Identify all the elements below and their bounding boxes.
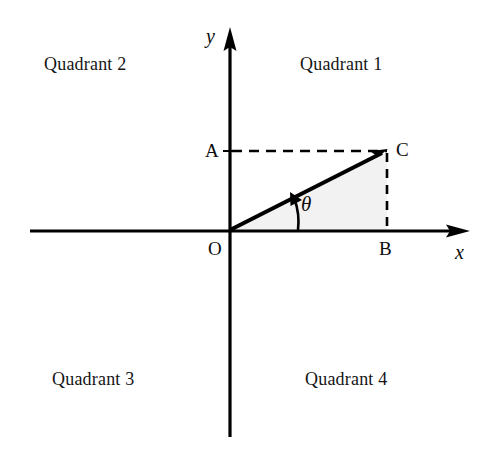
quadrant-label-4: Quadrant 4 <box>305 370 387 388</box>
quadrant-diagram: Quadrant 2 Quadrant 1 Quadrant 3 Quadran… <box>0 0 493 455</box>
angle-label-theta: θ <box>301 194 311 215</box>
y-axis-label: y <box>206 26 215 46</box>
point-label-b: B <box>379 239 392 258</box>
point-label-c: C <box>396 140 409 159</box>
point-label-o: O <box>208 239 222 258</box>
quadrant-label-3: Quadrant 3 <box>52 370 134 388</box>
quadrant-label-2: Quadrant 2 <box>44 55 126 73</box>
quadrant-label-1: Quadrant 1 <box>300 55 382 73</box>
point-label-a: A <box>205 141 219 160</box>
x-axis-label: x <box>455 242 464 262</box>
